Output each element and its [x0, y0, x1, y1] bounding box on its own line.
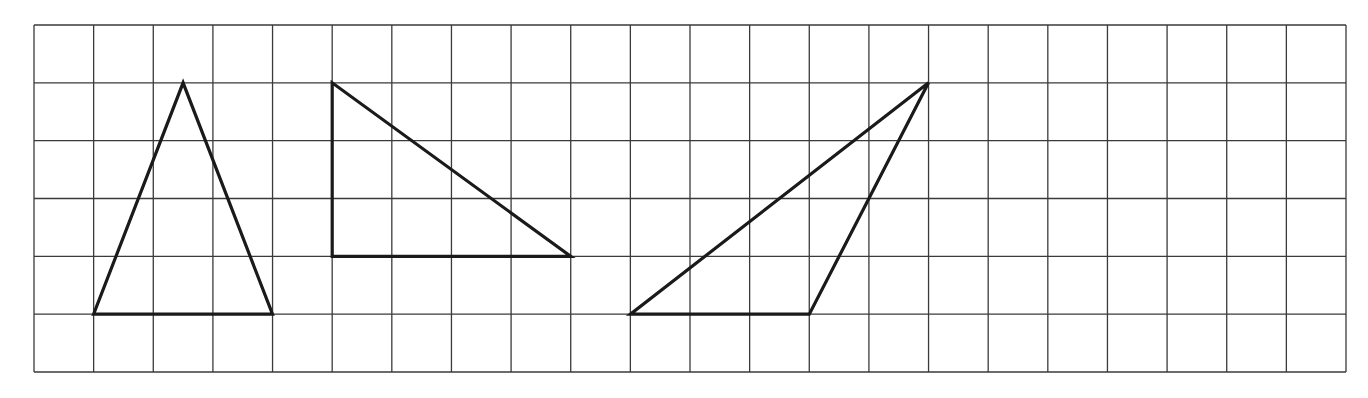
grid-diagram — [0, 0, 1368, 398]
grid-lines — [34, 25, 1346, 372]
